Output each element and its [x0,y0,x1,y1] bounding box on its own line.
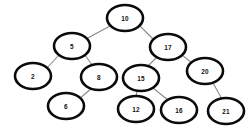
tree-nodes-group: 105172815206121621 [15,5,244,124]
tree-node-label: 2 [31,73,35,80]
tree-edge [148,57,157,66]
tree-node: 17 [150,34,186,60]
tree-node-label: 6 [64,103,68,110]
tree-edge [140,26,154,40]
tree-edge [46,55,59,69]
binary-search-tree-diagram: 105172815206121621 [0,0,251,136]
tree-node: 10 [107,5,143,31]
tree-edge [86,26,110,39]
tree-node: 21 [208,98,244,124]
tree-node: 12 [118,96,154,122]
tree-node-label: 16 [175,107,183,114]
tree-node: 20 [187,58,223,84]
tree-node-label: 20 [201,68,209,75]
tree-node: 8 [81,64,117,90]
tree-node-label: 15 [137,75,145,82]
tree-node: 2 [15,63,51,89]
tree-node: 16 [161,97,197,123]
tree-edge [85,55,92,65]
tree-canvas: 105172815206121621 [0,0,251,136]
tree-node-label: 5 [70,43,74,50]
tree-edge [153,88,168,100]
tree-node-label: 10 [121,15,129,22]
tree-node-label: 17 [164,44,172,51]
tree-node: 6 [48,93,84,119]
tree-node-label: 8 [97,74,101,81]
tree-node-label: 12 [132,106,140,113]
tree-node-label: 21 [222,108,230,115]
tree-node: 15 [123,65,159,91]
tree-node: 5 [54,33,90,59]
tree-edge [213,83,222,99]
